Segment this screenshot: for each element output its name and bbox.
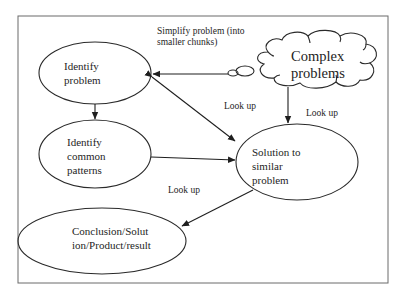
node-label-identify-patterns: Identify common patterns [67,136,108,176]
diagram-canvas: Identify problem Identify common pattern… [0,0,407,297]
node-label-solution-similar: Solution to similar problem [252,146,303,186]
edge-problem-solution-bidirectional [152,77,235,141]
node-label-conclusion: Conclusion/Solut ion/Product/result [72,225,151,251]
node-label-complex-problems: Complex problems [291,48,348,81]
cloud-bubble-large [236,66,254,76]
node-identify-problem [39,42,151,104]
node-label-identify-problem: Identify problem [64,60,102,86]
edge-label-simplify: Simplify problem (into smaller chunks) [157,26,247,48]
edge-solution-to-conclusion [182,190,253,226]
edge-label-look-up-problem-solution: Look up [224,101,256,111]
edge-label-look-up-solution-conclusion: Look up [168,185,200,195]
edge-patterns-to-solution [151,157,235,160]
edge-label-look-up-cloud-solution: Look up [306,108,338,118]
